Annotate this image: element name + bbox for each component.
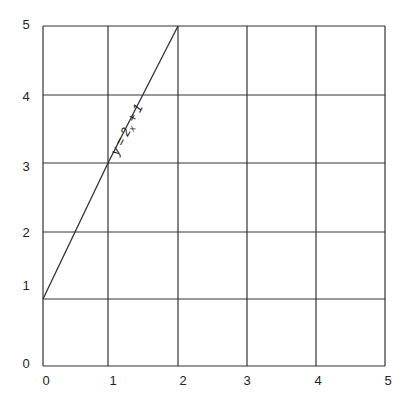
- equation-label: y = 2x + 1: [107, 101, 148, 159]
- y-axis-ticks: 012345: [22, 17, 29, 371]
- x-tick-label: 2: [179, 373, 186, 388]
- y-tick-label: 0: [22, 356, 29, 371]
- y-tick-label: 5: [22, 17, 29, 32]
- x-axis-ticks: 012345: [42, 373, 391, 388]
- line-chart: 012345 012345 y = 2x + 1: [0, 0, 407, 409]
- grid-lines: [43, 26, 385, 366]
- y-tick-label: 4: [22, 89, 29, 104]
- y-tick-label: 3: [22, 159, 29, 174]
- x-tick-label: 5: [384, 373, 391, 388]
- equation-text: y = 2x + 1: [107, 101, 148, 159]
- y-tick-label: 1: [22, 278, 29, 293]
- y-tick-label: 2: [22, 225, 29, 240]
- x-tick-label: 1: [109, 373, 116, 388]
- x-tick-label: 0: [42, 373, 49, 388]
- x-tick-label: 4: [314, 373, 321, 388]
- x-tick-label: 3: [243, 373, 250, 388]
